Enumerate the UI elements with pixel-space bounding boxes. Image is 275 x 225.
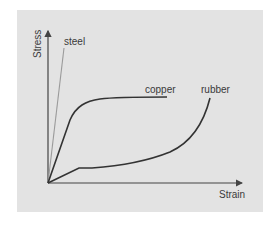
steel-curve	[48, 48, 64, 183]
steel-label: steel	[64, 36, 85, 47]
copper-label: copper	[145, 84, 176, 95]
x-axis-label: Strain	[219, 189, 245, 200]
rubber-curve	[48, 98, 210, 183]
copper-curve	[48, 97, 167, 183]
y-axis-label: Stress	[32, 30, 43, 58]
stress-strain-chart: Stress Strain steel copper rubber	[0, 0, 275, 225]
rubber-label: rubber	[201, 84, 231, 95]
